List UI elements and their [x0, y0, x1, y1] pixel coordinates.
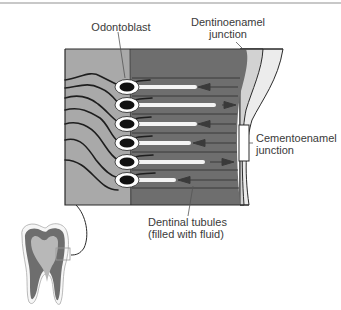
dej-label-line1: Dentinoenamel [190, 16, 266, 28]
dej-leader [236, 42, 242, 48]
odontoblast-label-text: Odontoblast [91, 21, 150, 33]
cej-label-line2: junction [256, 144, 337, 156]
tooth-connector-line [71, 205, 87, 255]
tubules-label-line2: (filled with fluid) [148, 228, 227, 240]
cementoenamel-bracket [239, 125, 249, 161]
cementoenamel-junction-label: Cementoenamel junction [256, 132, 337, 156]
tooth-illustration [22, 224, 70, 305]
odontoblast-label: Odontoblast [86, 21, 156, 33]
dentinoenamel-junction-label: Dentinoenamel junction [190, 16, 266, 40]
tubules-label-line1: Dentinal tubules [148, 216, 227, 228]
dentinal-tubules-label: Dentinal tubules (filled with fluid) [148, 216, 227, 240]
cej-label-line1: Cementoenamel [256, 132, 337, 144]
dej-label-line2: junction [190, 28, 266, 40]
